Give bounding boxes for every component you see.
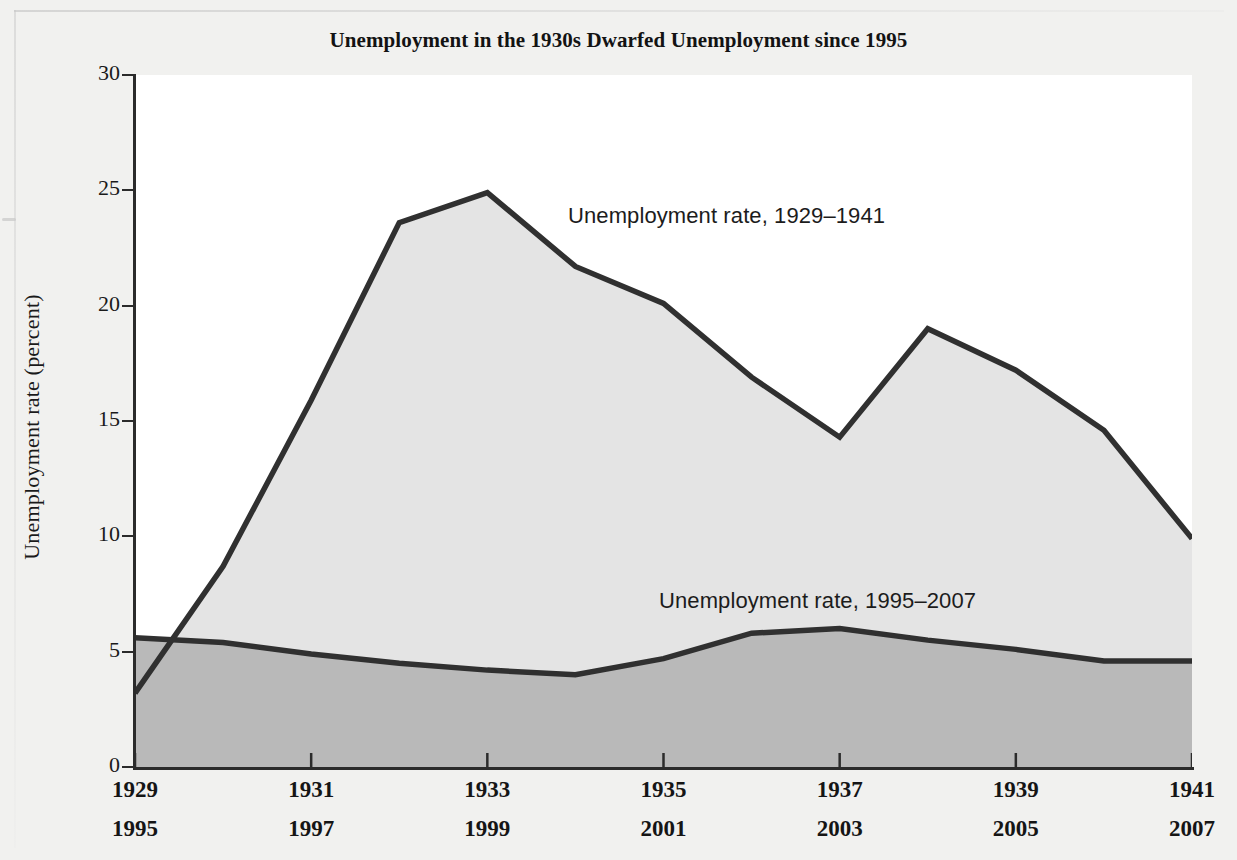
x-axis-tick-group: 19372003 [770, 778, 910, 840]
x-axis-tick-group: 19412007 [1122, 778, 1237, 840]
figure-page: Unemployment in the 1930s Dwarfed Unempl… [0, 0, 1237, 860]
x-axis-tick-group: 19392005 [946, 778, 1086, 840]
y-axis-tick-mark [122, 766, 133, 768]
x-axis-tick-label-primary: 1939 [946, 778, 1086, 801]
x-axis-tick-label-secondary: 1995 [65, 817, 205, 840]
x-axis-labels: 1929199519311997193319991935200119372003… [0, 0, 1237, 860]
x-axis-tick-group: 19352001 [594, 778, 734, 840]
x-axis-tick-label-secondary: 2001 [594, 817, 734, 840]
x-axis-tick-label-primary: 1933 [417, 778, 557, 801]
x-axis-tick-group: 19331999 [417, 778, 557, 840]
y-axis-tick-mark [122, 74, 133, 76]
x-axis-tick-label-secondary: 2005 [946, 817, 1086, 840]
y-axis-tick-mark [122, 305, 133, 307]
x-axis-tick-label-primary: 1931 [241, 778, 381, 801]
x-axis-tick-group: 19311997 [241, 778, 381, 840]
y-axis-tick-mark [122, 651, 133, 653]
annotation-series-1995-2007: Unemployment rate, 1995–2007 [659, 588, 976, 614]
y-axis-tick-mark [122, 535, 133, 537]
x-axis-tick-label-secondary: 2003 [770, 817, 910, 840]
x-axis-tick-label-secondary: 1997 [241, 817, 381, 840]
x-axis-tick-label-primary: 1929 [65, 778, 205, 801]
x-axis-tick-label-secondary: 2007 [1122, 817, 1237, 840]
y-axis-tick-mark [122, 189, 133, 191]
x-axis-tick-label-primary: 1937 [770, 778, 910, 801]
x-axis-tick-label-secondary: 1999 [417, 817, 557, 840]
x-axis-tick-label-primary: 1935 [594, 778, 734, 801]
annotation-series-1929-1941: Unemployment rate, 1929–1941 [568, 203, 885, 229]
y-axis-tick-mark [122, 420, 133, 422]
x-axis-tick-group: 19291995 [65, 778, 205, 840]
x-axis-tick-label-primary: 1941 [1122, 778, 1237, 801]
